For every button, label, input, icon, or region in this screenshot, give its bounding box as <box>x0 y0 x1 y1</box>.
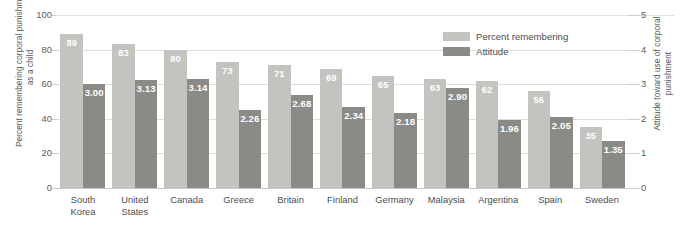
y-tick-label-right: 3 <box>641 78 657 89</box>
bar-value-label: 3.13 <box>135 83 158 94</box>
axis-baseline <box>57 188 628 189</box>
bar-percent-remembering: 65 <box>372 76 395 188</box>
y-axis-right-title: Attitude toward use of corporal punishme… <box>653 0 674 149</box>
bar-attitude: 2.26 <box>239 110 262 188</box>
y-tick-label-right: 1 <box>641 147 657 158</box>
y-tick-mark-left <box>52 50 57 51</box>
legend-label: Percent remembering <box>476 31 568 42</box>
bar-value-label: 2.18 <box>394 116 417 127</box>
bar-value-label: 2.68 <box>291 98 314 109</box>
bar-group: 732.26 <box>213 15 265 188</box>
y-tick-mark-right <box>628 119 640 120</box>
bar-value-label: 2.26 <box>239 113 262 124</box>
x-category-label: South Korea <box>57 194 109 217</box>
bar-percent-remembering: 62 <box>476 81 499 188</box>
bar-value-label: 80 <box>164 53 187 64</box>
y-tick-mark-left <box>52 15 57 16</box>
x-category-label: Malaysia <box>420 194 472 206</box>
bar-attitude: 2.05 <box>550 117 573 188</box>
y-axis-left-title: Percent remembering corporal punishment … <box>15 0 36 153</box>
bar-percent-remembering: 89 <box>60 34 83 188</box>
y-tick-label-right: 2 <box>641 113 657 124</box>
y-tick-label-right: 5 <box>641 9 657 20</box>
bar-value-label: 62 <box>476 84 499 95</box>
bar-value-label: 83 <box>112 47 135 58</box>
bar-value-label: 2.34 <box>342 110 365 121</box>
x-category-label: Argentina <box>472 194 524 206</box>
x-category-label: United States <box>109 194 161 217</box>
y-tick-label-left: 0 <box>27 182 52 193</box>
legend-swatch <box>443 32 470 41</box>
bar-percent-remembering: 56 <box>528 91 551 188</box>
bar-value-label: 73 <box>216 65 239 76</box>
bar-percent-remembering: 63 <box>424 79 447 188</box>
bar-value-label: 71 <box>268 68 291 79</box>
bar-value-label: 1.96 <box>498 123 521 134</box>
bar-group: 803.14 <box>161 15 213 188</box>
y-tick-label-left: 20 <box>27 147 52 158</box>
y-tick-mark-right <box>628 15 640 16</box>
bar-percent-remembering: 83 <box>112 44 135 188</box>
bar-value-label: 56 <box>528 94 551 105</box>
bar-chart: Percent remembering corporal punishment … <box>0 0 693 233</box>
bar-percent-remembering: 71 <box>268 65 291 188</box>
bar-value-label: 89 <box>60 37 83 48</box>
bar-attitude: 1.96 <box>498 120 521 188</box>
bar-percent-remembering: 69 <box>320 69 343 188</box>
y-tick-mark-right <box>628 84 640 85</box>
y-tick-label-right: 0 <box>641 182 657 193</box>
x-category-label: Spain <box>524 194 576 206</box>
x-category-label: Canada <box>161 194 213 206</box>
bar-value-label: 2.05 <box>550 120 573 131</box>
bar-group: 893.00 <box>57 15 109 188</box>
y-tick-mark-left <box>52 84 57 85</box>
bar-group: 351.35 <box>576 15 628 188</box>
bar-value-label: 3.14 <box>187 82 210 93</box>
bar-attitude: 2.34 <box>342 107 365 188</box>
y-tick-mark-right <box>628 50 640 51</box>
legend-item: Attitude <box>443 45 568 57</box>
y-tick-label-left: 40 <box>27 113 52 124</box>
bar-value-label: 65 <box>372 79 395 90</box>
chart-legend: Percent rememberingAttitude <box>443 30 568 60</box>
legend-label: Attitude <box>476 46 509 57</box>
y-tick-label-left: 100 <box>27 9 52 20</box>
legend-item: Percent remembering <box>443 30 568 42</box>
bar-group: 652.18 <box>368 15 420 188</box>
bar-percent-remembering: 73 <box>216 62 239 188</box>
y-tick-mark-left <box>52 188 57 189</box>
y-tick-label-left: 60 <box>27 78 52 89</box>
y-tick-mark-left <box>52 153 57 154</box>
x-category-label: Britain <box>265 194 317 206</box>
bar-attitude: 1.35 <box>602 141 625 188</box>
bar-group: 833.13 <box>109 15 161 188</box>
bar-attitude: 3.00 <box>83 84 106 188</box>
bar-value-label: 2.90 <box>446 91 469 102</box>
bar-group: 712.68 <box>265 15 317 188</box>
x-category-label: Sweden <box>576 194 628 206</box>
y-tick-mark-left <box>52 119 57 120</box>
bar-value-label: 63 <box>424 82 447 93</box>
x-category-label: Greece <box>213 194 265 206</box>
bar-percent-remembering: 80 <box>164 50 187 188</box>
bar-attitude: 2.18 <box>394 113 417 188</box>
bar-value-label: 69 <box>320 72 343 83</box>
bar-attitude: 3.13 <box>135 80 158 188</box>
bar-percent-remembering: 35 <box>580 127 603 188</box>
bar-group: 692.34 <box>317 15 369 188</box>
bar-attitude: 2.68 <box>291 95 314 188</box>
x-category-label: Germany <box>368 194 420 206</box>
legend-swatch <box>443 47 470 56</box>
bar-value-label: 3.00 <box>83 87 106 98</box>
y-tick-mark-right <box>628 153 640 154</box>
x-category-label: Finland <box>317 194 369 206</box>
y-tick-mark-right <box>628 188 640 189</box>
y-tick-label-right: 4 <box>641 44 657 55</box>
bar-attitude: 3.14 <box>187 79 210 188</box>
bar-value-label: 1.35 <box>602 144 625 155</box>
y-tick-label-left: 80 <box>27 44 52 55</box>
bar-attitude: 2.90 <box>446 88 469 188</box>
bar-value-label: 35 <box>580 130 603 141</box>
